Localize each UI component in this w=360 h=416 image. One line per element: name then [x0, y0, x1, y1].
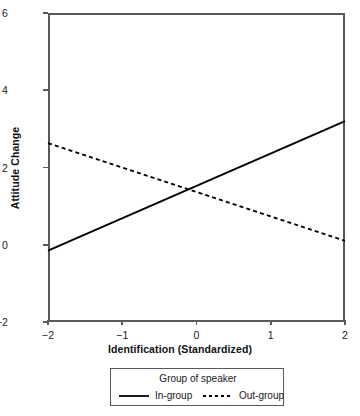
- legend-item-out-group[interactable]: Out-group: [203, 389, 284, 403]
- y-tick-label: 0: [0, 240, 8, 251]
- legend-box: Group of speaker In-group Out-group: [110, 368, 284, 406]
- series-lines: [48, 13, 345, 322]
- y-tick-label: 4: [0, 85, 8, 96]
- legend-key-solid-line-icon: [119, 391, 149, 401]
- x-tick-label: 1: [251, 330, 291, 341]
- x-tick-label: −1: [102, 330, 142, 341]
- series-line-in-group: [48, 121, 345, 250]
- x-tick-label: −2: [28, 330, 68, 341]
- x-tick-label: 2: [325, 330, 360, 341]
- series-line-out-group: [48, 143, 345, 241]
- legend-item-in-group[interactable]: In-group: [119, 389, 192, 403]
- chart-figure: Attitude Change 6420−2 −2−1012 Identific…: [0, 0, 360, 416]
- y-tick-label: 6: [0, 8, 8, 19]
- legend-label-in-group: In-group: [155, 391, 192, 401]
- legend-label-out-group: Out-group: [239, 391, 284, 401]
- y-tick-label: −2: [0, 317, 8, 328]
- x-tick-label: 0: [177, 330, 217, 341]
- plot-area: [48, 13, 345, 322]
- y-tick-label: 2: [0, 163, 8, 174]
- legend-key-dotted-line-icon: [203, 391, 233, 401]
- x-axis-title: Identification (Standardized): [0, 343, 360, 355]
- legend-title: Group of speaker: [111, 373, 285, 384]
